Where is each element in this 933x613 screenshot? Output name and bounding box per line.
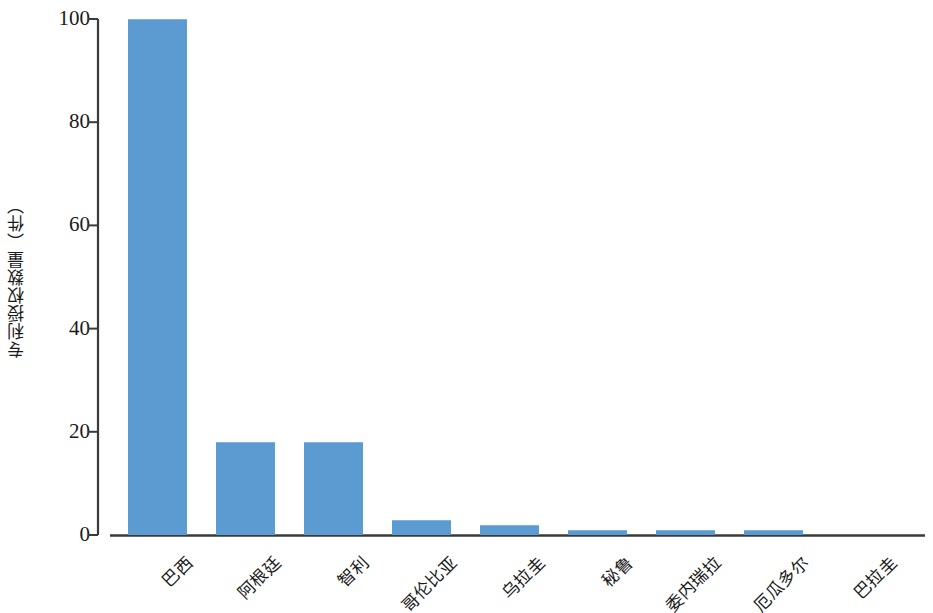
x-axis-tick-labels: 巴西阿根廷智利哥伦比亚乌拉圭秘鲁委内瑞拉厄瓜多尔巴拉圭 [0,0,933,613]
bar-chart: 专利授权数量（件） 020406080100 巴西阿根廷智利哥伦比亚乌拉圭秘鲁委… [0,0,933,613]
x-axis-tick-label: 巴西 [38,549,197,613]
